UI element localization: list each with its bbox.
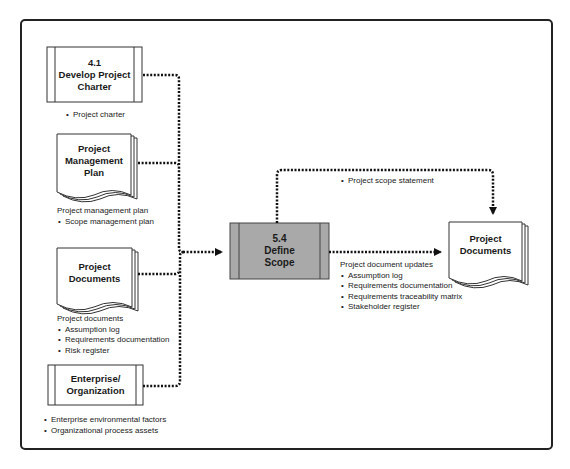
process-name-line: Scope — [264, 257, 294, 269]
process-number: 5.4 — [273, 233, 287, 245]
doc-title-line: Documents — [69, 273, 121, 285]
develop-project-charter-title: 4.1 Develop Project Charter — [55, 49, 134, 100]
list-item: Project scope statement — [340, 176, 434, 187]
enterprise-organization-title: Enterprise/ Organization — [55, 367, 136, 403]
list-item: Assumption log — [340, 271, 462, 282]
document-updates-label: Project document updates Assumption log … — [340, 260, 462, 313]
list-item: Stakeholder register — [340, 302, 462, 313]
process-number: 4.1 — [88, 57, 101, 69]
items-heading: Project documents — [57, 314, 170, 325]
scope-statement-label: Project scope statement — [340, 176, 434, 187]
list-item: Assumption log — [57, 325, 170, 336]
list-item: Requirements documentation — [340, 281, 462, 292]
project-documents-output-title: Project Documents — [449, 227, 522, 263]
pm-plan-items: Project management plan Scope management… — [57, 206, 154, 227]
process-name-line: Develop Project — [59, 69, 131, 81]
project-documents-items: Project documents Assumption log Require… — [57, 314, 170, 356]
box-title-line: Organization — [66, 385, 124, 397]
list-item: Scope management plan — [57, 217, 154, 228]
list-item: Project charter — [65, 110, 125, 121]
enterprise-items: Enterprise environmental factors Organiz… — [43, 415, 166, 436]
project-documents-input-title: Project Documents — [57, 256, 132, 290]
list-item: Risk register — [57, 346, 170, 357]
doc-title-line: Project — [78, 261, 110, 273]
process-name-line: Define — [264, 245, 295, 257]
process-name-line: Charter — [78, 81, 112, 93]
define-scope-title: 5.4 Define Scope — [239, 225, 320, 277]
items-heading: Project management plan — [57, 206, 154, 217]
list-item: Requirements traceability matrix — [340, 292, 462, 303]
doc-title-line: Project — [469, 233, 501, 245]
flow-project-docs-to-junction — [138, 270, 179, 274]
box-title-line: Enterprise/ — [71, 373, 121, 385]
doc-title-line: Management — [65, 155, 123, 167]
charter-outputs-list: Project charter — [65, 110, 125, 121]
flow-pm-plan-to-junction — [138, 163, 179, 167]
list-item: Enterprise environmental factors — [43, 415, 166, 426]
list-item: Organizational process assets — [43, 426, 166, 437]
doc-title-line: Plan — [84, 167, 104, 179]
doc-title-line: Documents — [460, 245, 512, 257]
doc-title-line: Project — [78, 143, 110, 155]
items-heading: Project document updates — [340, 260, 462, 271]
list-item: Requirements documentation — [57, 335, 170, 346]
project-management-plan-title: Project Management Plan — [57, 138, 131, 183]
